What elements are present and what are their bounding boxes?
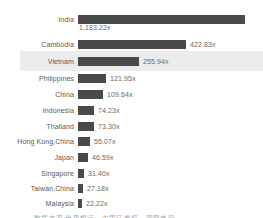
value-label-philippines: 121.95x (110, 71, 136, 86)
value-label-taiwan-china: 27.18x (87, 181, 109, 196)
category-label-philippines: Philippines (0, 71, 74, 86)
chart-row: Taiwan,China27.18x (0, 181, 263, 196)
chart-caption: 数据来源:世界银行、中国证券报、观察者网 (34, 213, 175, 218)
category-label-singapore: Singapore (0, 166, 74, 181)
category-label-thailand: Thailand (0, 119, 74, 134)
bar-hong-kong-china (78, 137, 90, 146)
value-label-china: 109.64x (107, 87, 133, 102)
chart-row: Singapore31.40x (0, 166, 263, 181)
value-label-singapore: 31.40x (88, 166, 110, 181)
bar-chart: 1,183.22xIndiaCambodia422.83xVietnam255.… (0, 0, 263, 218)
chart-row: Malaysia22.22x (0, 196, 263, 211)
value-label-malaysia: 22.22x (86, 196, 108, 211)
value-label-hong-kong-china: 55.07x (94, 134, 116, 149)
category-label-taiwan-china: Taiwan,China (0, 181, 74, 196)
category-label-indonesia: Indonesia (0, 103, 74, 118)
category-label-japan: Japan (0, 150, 74, 165)
bar-taiwan-china (78, 184, 83, 193)
bar-china (78, 90, 103, 99)
category-label-malaysia: Malaysia (0, 196, 74, 211)
value-label-indonesia: 74.23x (98, 103, 120, 118)
chart-row: China109.64x (0, 87, 263, 102)
bar-india (78, 15, 245, 24)
chart-row: Hong Kong,China55.07x (0, 134, 263, 149)
value-label-thailand: 73.30x (98, 119, 120, 134)
category-label-hong-kong-china: Hong Kong,China (0, 134, 74, 149)
value-label-vietnam: 255.94x (143, 54, 169, 69)
category-label-india: India (0, 12, 74, 27)
bar-singapore (78, 169, 84, 178)
bar-thailand (78, 122, 94, 131)
chart-row: Japan46.59x (0, 150, 263, 165)
bar-malaysia (78, 199, 82, 208)
bar-philippines (78, 74, 106, 83)
chart-row: India (0, 12, 263, 27)
bar-cambodia (78, 40, 186, 49)
value-label-japan: 46.59x (92, 150, 114, 165)
chart-row: Indonesia74.23x (0, 103, 263, 118)
bar-vietnam (78, 57, 139, 66)
chart-row: Vietnam255.94x (0, 54, 263, 69)
category-label-china: China (0, 87, 74, 102)
value-label-cambodia: 422.83x (190, 37, 216, 52)
chart-row: Cambodia422.83x (0, 37, 263, 52)
category-label-cambodia: Cambodia (0, 37, 74, 52)
chart-row: Thailand73.30x (0, 119, 263, 134)
bar-japan (78, 153, 88, 162)
category-label-vietnam: Vietnam (0, 54, 74, 69)
chart-row: Philippines121.95x (0, 71, 263, 86)
bar-indonesia (78, 106, 94, 115)
